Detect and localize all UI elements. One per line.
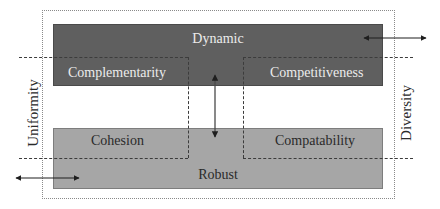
arrows-layer (0, 0, 440, 209)
